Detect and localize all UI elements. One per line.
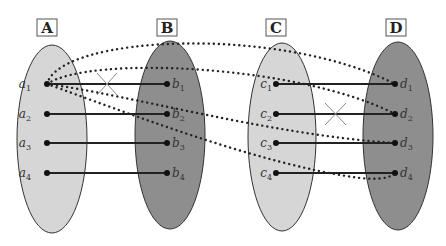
node-d3 bbox=[392, 140, 398, 146]
node-a4 bbox=[44, 170, 50, 176]
set-mapping-diagram: A B C D a1 a bbox=[0, 0, 446, 246]
set-b-label: B bbox=[157, 19, 177, 37]
set-d-label: D bbox=[386, 19, 406, 37]
dotted-map-a1-d1 bbox=[47, 43, 395, 84]
node-a2 bbox=[44, 111, 50, 117]
node-c1 bbox=[273, 81, 279, 87]
set-d-ellipse bbox=[363, 42, 433, 230]
node-b2 bbox=[164, 111, 170, 117]
node-d2 bbox=[392, 111, 398, 117]
node-c3 bbox=[273, 140, 279, 146]
node-b1 bbox=[164, 81, 170, 87]
set-c-label: C bbox=[266, 19, 286, 37]
svg-text:A: A bbox=[40, 19, 53, 37]
set-a-label: A bbox=[37, 19, 57, 37]
node-a3 bbox=[44, 140, 50, 146]
node-c2 bbox=[273, 111, 279, 117]
node-d4 bbox=[392, 170, 398, 176]
node-b3 bbox=[164, 140, 170, 146]
dotted-map-a1-d4 bbox=[47, 84, 395, 179]
node-b4 bbox=[164, 170, 170, 176]
svg-text:B: B bbox=[161, 19, 174, 37]
svg-text:D: D bbox=[389, 19, 402, 37]
node-d1 bbox=[392, 81, 398, 87]
set-c-ellipse bbox=[248, 43, 316, 231]
node-a1 bbox=[44, 81, 50, 87]
node-c4 bbox=[273, 170, 279, 176]
svg-text:C: C bbox=[270, 19, 282, 37]
set-b-ellipse bbox=[135, 41, 205, 229]
